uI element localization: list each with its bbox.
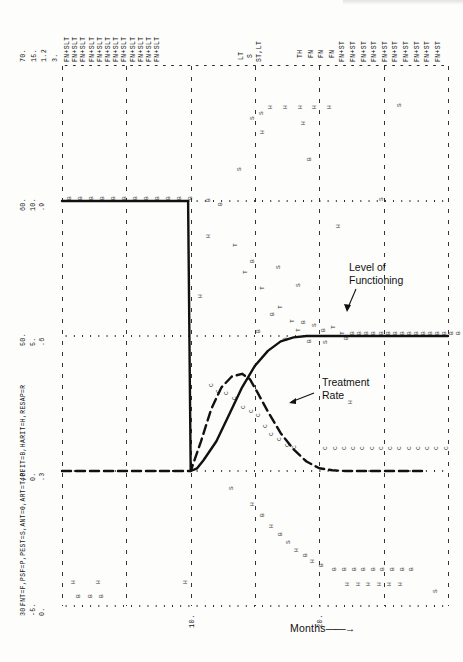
plot-symbol-H: H — [294, 548, 300, 552]
annotation-level-of-functioning: Level of Functioning — [349, 261, 403, 286]
plot-symbol-B: B — [270, 312, 276, 316]
top-y-tick-label-2: 1.2 — [41, 49, 48, 62]
plot-symbol-H: H — [398, 582, 404, 586]
plot-symbol-T: T — [278, 305, 284, 309]
plot-symbol-H: H — [96, 580, 102, 584]
plot-symbol-B: B — [344, 336, 350, 340]
plot-symbol-S: S — [433, 588, 439, 592]
left-axis-title: FNT=F,PSF=P,PEST=S,ANT=0,ART=T,PFIT=B,HA… — [20, 385, 27, 606]
scan-edge-artifact — [343, 0, 463, 5]
plot-symbol-C: C — [292, 445, 298, 449]
plot-symbol-S: S — [237, 167, 243, 171]
plot-symbol-B: B — [307, 156, 313, 160]
header-label: FN+ST — [372, 41, 378, 62]
plot-symbol-C: C — [434, 446, 440, 450]
plot-symbol-C: C — [224, 391, 230, 395]
y-tick-label-upper-1: 10. — [30, 198, 37, 211]
gridline-v-30 — [448, 66, 449, 606]
plot-symbol-C: C — [256, 413, 262, 417]
header-label: FN+SLT — [90, 37, 96, 62]
plot-symbol-B: B — [371, 567, 377, 571]
plot-symbol-C: C — [216, 389, 222, 393]
plot-symbol-B: B — [301, 320, 307, 324]
plot-symbol-H: H — [387, 582, 393, 586]
plot-symbol-H: H — [312, 105, 318, 109]
plot-symbol-B: B — [218, 202, 224, 206]
plot-symbol-B: B — [332, 567, 338, 571]
plot-symbol-H: H — [198, 294, 204, 298]
plot-symbol-C: C — [209, 383, 215, 387]
plot-symbol-B: B — [393, 331, 399, 335]
y-tick-label-bottom-1: -5. — [30, 603, 37, 616]
header-label: FN+ST — [362, 41, 368, 62]
plot-symbol-B: B — [122, 196, 128, 200]
top-y-tick-label-1: 15. — [31, 49, 38, 62]
header-label: FN+ST — [393, 41, 399, 62]
plot-symbol-H: H — [356, 582, 362, 586]
top-y-tick-label-0: 70. — [20, 49, 27, 62]
y-tick-label-upper-2: .9 — [39, 202, 46, 211]
plot-symbol-H: H — [345, 582, 351, 586]
plot-symbol-S: S — [286, 540, 292, 544]
plot-symbol-H: H — [336, 224, 342, 228]
plot-symbol-B: B — [111, 196, 117, 200]
plot-symbol-H: H — [183, 580, 189, 584]
plot-symbol-C: C — [416, 446, 422, 450]
header-label: FN+ST — [415, 41, 421, 62]
plot-symbol-B: B — [283, 337, 289, 341]
plot-symbol-S: S — [323, 340, 329, 344]
plot-symbol-S: S — [229, 486, 235, 490]
header-label: FN — [319, 50, 325, 58]
header-label: FN+SLT — [114, 37, 120, 62]
header-label: ST,LT — [257, 41, 263, 62]
plot-symbol-S: S — [296, 283, 302, 287]
plot-symbol-B: B — [409, 567, 415, 571]
plot-symbol-C: C — [360, 446, 366, 450]
plot-symbol-B: B — [386, 331, 392, 335]
plot-symbol-B: B — [319, 563, 325, 567]
plot-symbol-C: C — [407, 446, 413, 450]
header-label: FN — [330, 50, 336, 58]
plot-symbol-S: S — [397, 102, 403, 106]
plot-symbol-B: B — [379, 331, 385, 335]
plot-symbol-B: B — [88, 594, 94, 598]
header-label: FN+ST — [436, 41, 442, 62]
plot-symbol-H: H — [268, 105, 274, 109]
plot-symbol-H: H — [206, 233, 212, 237]
header-label: FN+ST — [351, 41, 357, 62]
plot-symbol-B: B — [278, 532, 284, 536]
y-tick-label-middle-0: 50. — [20, 333, 27, 346]
plot-symbol-S: S — [259, 110, 265, 114]
annotation-treatment-rate: Treatment Rate — [322, 376, 369, 401]
plot-symbol-C: C — [277, 437, 283, 441]
header-label: FN+SLT — [73, 37, 79, 62]
plot-symbol-B: B — [155, 196, 161, 200]
plot-symbol-H: H — [327, 105, 333, 109]
header-label: FN — [309, 50, 315, 58]
plot-symbol-T: T — [296, 328, 302, 332]
plot-symbol-H: H — [283, 105, 289, 109]
header-label: FN+SLT — [81, 37, 87, 62]
x-axis-arrow: ——→ — [326, 622, 355, 634]
y-tick-label-bottom-2: 0. — [39, 607, 46, 616]
header-label: FN+SLT — [98, 37, 104, 62]
plot-symbol-B: B — [250, 259, 256, 263]
plot-symbol-H: H — [71, 580, 77, 584]
gridline-h-40 — [62, 470, 448, 472]
plot-symbol-B: B — [133, 196, 139, 200]
plot-symbol-H: H — [250, 502, 256, 506]
plot-symbol-C: C — [269, 432, 275, 436]
plot-symbol-B: B — [456, 331, 462, 335]
header-label: TH — [298, 50, 304, 58]
plot-symbol-C: C — [241, 405, 247, 409]
plot-symbol-B: B — [303, 553, 309, 557]
plot-symbol-C: C — [425, 446, 431, 450]
plot-symbol-B: B — [361, 567, 367, 571]
plot-symbol-B: B — [78, 196, 84, 200]
plot-symbol-B: B — [342, 567, 348, 571]
header-label: FN+SLT — [122, 37, 128, 62]
plot-symbol-B: B — [76, 594, 82, 598]
header-label: FN+ST — [340, 41, 346, 62]
header-label: FN+ST — [383, 41, 389, 62]
header-label: FN+ST — [404, 41, 410, 62]
